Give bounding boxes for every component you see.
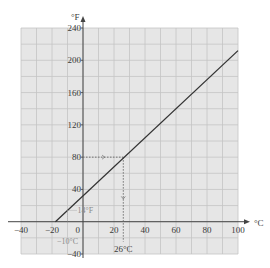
y-tick-label: 40 <box>72 184 82 194</box>
x-axis-unit-label: °C <box>254 218 264 228</box>
x-tick-label: 20 <box>110 225 120 235</box>
y-tick-label: 120 <box>68 120 82 130</box>
x-tick-label: −40 <box>14 225 29 235</box>
annotation-14f: 14°F <box>78 206 94 215</box>
y-tick-label: 200 <box>68 55 82 65</box>
annotation-26c: 26°C <box>114 244 133 254</box>
x-axis-arrow-icon <box>244 219 250 224</box>
x-tick-label: 60 <box>172 225 182 235</box>
x-tick-label: 40 <box>141 225 151 235</box>
x-tick-label: 0 <box>76 225 81 235</box>
y-tick-label: 160 <box>68 88 82 98</box>
y-axis-unit-label: °F <box>71 12 80 22</box>
annotation-minus10c: −10°C <box>57 237 78 246</box>
y-tick-label: −40 <box>67 249 82 259</box>
y-tick-label: 240 <box>68 23 82 33</box>
x-tick-label: −20 <box>45 225 60 235</box>
y-axis-arrow-icon <box>81 16 86 22</box>
x-tick-label: 100 <box>231 225 245 235</box>
y-tick-label: 80 <box>72 152 82 162</box>
temperature-conversion-chart: °F°C−40−20020406080100−40408012016020024… <box>0 0 270 268</box>
x-tick-label: 80 <box>203 225 213 235</box>
